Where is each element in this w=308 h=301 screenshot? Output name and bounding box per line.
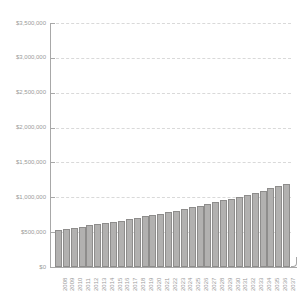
gridline bbox=[51, 162, 291, 163]
x-axis-label: 2029 bbox=[227, 278, 233, 291]
x-axis-label: 2034 bbox=[266, 278, 272, 291]
y-axis-label: $2,500,000 bbox=[0, 89, 46, 96]
x-axis-label: 2014 bbox=[109, 278, 115, 291]
x-axis-label: 2011 bbox=[85, 278, 91, 291]
gridline bbox=[51, 93, 291, 94]
y-axis-label: $1,000,000 bbox=[0, 194, 46, 201]
bar-2027 bbox=[204, 204, 211, 267]
bar-2030 bbox=[228, 199, 235, 267]
x-axis-label: 2012 bbox=[93, 278, 99, 291]
y-axis-label: $0 bbox=[0, 264, 46, 271]
bar-2016 bbox=[118, 221, 125, 268]
x-axis-label: 2010 bbox=[77, 278, 83, 291]
bar-2020 bbox=[149, 215, 156, 267]
bar-2009 bbox=[63, 229, 70, 267]
x-axis-label: 2036 bbox=[282, 278, 288, 291]
x-axis-label: 2023 bbox=[180, 278, 186, 291]
bar-2019 bbox=[142, 216, 149, 267]
x-axis-label: 2019 bbox=[148, 278, 154, 291]
x-axis-label: 2033 bbox=[258, 278, 264, 291]
bar-2013 bbox=[94, 224, 101, 267]
bar-2012 bbox=[86, 225, 93, 267]
x-axis-label: 2018 bbox=[140, 278, 146, 291]
x-axis-label: 2030 bbox=[235, 278, 241, 291]
x-axis-label: 2035 bbox=[274, 278, 280, 291]
bar-2024 bbox=[181, 209, 188, 267]
bar-2014 bbox=[102, 223, 109, 267]
bar-2029 bbox=[220, 200, 227, 267]
x-axis-label: 2028 bbox=[219, 278, 225, 291]
bar-2033 bbox=[252, 193, 259, 267]
y-axis-label: $2,000,000 bbox=[0, 124, 46, 131]
x-axis-label: 2027 bbox=[211, 278, 217, 291]
bar-2015 bbox=[110, 222, 117, 267]
bar-2017 bbox=[126, 219, 133, 267]
x-axis-label: 2009 bbox=[69, 278, 75, 291]
bar-2010 bbox=[71, 228, 78, 267]
bar-2037 bbox=[283, 184, 290, 267]
x-axis-line bbox=[50, 267, 297, 268]
bar-2018 bbox=[134, 218, 141, 267]
bar-2028 bbox=[212, 202, 219, 267]
x-axis-label: 2008 bbox=[62, 278, 68, 291]
x-axis-label: 2021 bbox=[164, 278, 170, 291]
x-axis-label: 2031 bbox=[242, 278, 248, 291]
bar-2031 bbox=[236, 197, 243, 267]
bar-2036 bbox=[275, 186, 282, 267]
gridline bbox=[51, 58, 291, 59]
y-axis-tick bbox=[50, 162, 55, 163]
y-axis-tick bbox=[50, 58, 55, 59]
x-axis-label: 2013 bbox=[101, 278, 107, 291]
bar-2008 bbox=[55, 230, 62, 267]
bar-2022 bbox=[165, 212, 172, 267]
y-axis-tick bbox=[50, 93, 55, 94]
bar-2026 bbox=[197, 206, 204, 267]
y-axis-label: $500,000 bbox=[0, 229, 46, 236]
bar-2032 bbox=[244, 195, 251, 267]
x-axis-label: 2026 bbox=[203, 278, 209, 291]
gridline bbox=[51, 128, 291, 129]
bar-2034 bbox=[260, 191, 267, 267]
x-axis-label: 2017 bbox=[132, 278, 138, 291]
x-axis-label: 2015 bbox=[117, 278, 123, 291]
x-axis-label: 2016 bbox=[124, 278, 130, 291]
x-axis-label: 2025 bbox=[195, 278, 201, 291]
bar-chart: $0$500,000$1,000,000$1,500,000$2,000,000… bbox=[0, 0, 308, 301]
y-axis-tick bbox=[50, 197, 55, 198]
x-axis-label: 2032 bbox=[250, 278, 256, 291]
bar-2023 bbox=[173, 211, 180, 267]
bar-2035 bbox=[267, 188, 274, 267]
bar-2011 bbox=[79, 227, 86, 268]
x-axis-label: 2037 bbox=[290, 278, 296, 291]
y-axis-tick bbox=[50, 23, 55, 24]
y-axis-tick bbox=[50, 128, 55, 129]
x-axis-label: 2022 bbox=[172, 278, 178, 291]
y-axis-label: $3,500,000 bbox=[0, 20, 46, 27]
x-axis-label: 2020 bbox=[156, 278, 162, 291]
plot-area bbox=[50, 23, 296, 267]
bar-2021 bbox=[157, 214, 164, 267]
x-axis-label: 2024 bbox=[187, 278, 193, 291]
y-axis-label: $1,500,000 bbox=[0, 159, 46, 166]
bar-2025 bbox=[189, 207, 196, 267]
gridline bbox=[51, 23, 291, 24]
y-axis-label: $3,000,000 bbox=[0, 54, 46, 61]
